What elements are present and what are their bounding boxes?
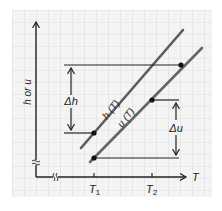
h-u-temperature-diagram: h or u T T1 T2 h (T) u (T) Δh Δu — [0, 0, 222, 211]
marker-u-t1 — [91, 155, 96, 160]
y-axis-label: h or u — [22, 79, 33, 105]
marker-u-t2 — [149, 97, 154, 102]
marker-h-t2 — [178, 62, 183, 67]
delta-u-label: Δu — [168, 122, 183, 134]
x-axis-break-icon — [53, 172, 58, 182]
marker-h-t1 — [91, 130, 96, 135]
y-axis-break-icon — [31, 160, 41, 165]
delta-h-label: Δh — [63, 95, 78, 107]
